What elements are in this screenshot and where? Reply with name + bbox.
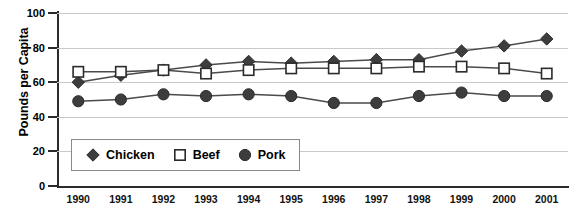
data-point xyxy=(456,61,466,71)
data-point xyxy=(371,97,382,108)
x-axis-tick-label: 1990 xyxy=(67,193,90,205)
x-axis-tick-label: 2001 xyxy=(535,193,558,205)
y-axis-tick-mark xyxy=(48,185,57,187)
y-axis-tick-label: 60 xyxy=(33,76,45,88)
data-point xyxy=(72,76,84,88)
data-point xyxy=(329,63,339,73)
data-point xyxy=(413,90,424,101)
y-axis-tick-label: 40 xyxy=(33,111,45,123)
y-axis-tick-label: 0 xyxy=(39,180,45,192)
series-pork xyxy=(78,93,546,103)
filled-diamond-icon xyxy=(85,147,101,163)
data-point xyxy=(456,87,467,98)
data-point xyxy=(541,33,553,45)
open-square-icon xyxy=(172,147,188,163)
series-line xyxy=(78,93,546,103)
markers-chicken xyxy=(72,33,553,89)
data-point xyxy=(498,40,510,52)
y-axis-tick-mark xyxy=(48,150,57,152)
data-point xyxy=(158,65,168,75)
legend-label: Beef xyxy=(193,148,220,162)
data-point xyxy=(371,63,381,73)
data-point xyxy=(455,45,467,57)
series-line xyxy=(78,39,546,82)
x-axis-tick-label: 1996 xyxy=(322,193,345,205)
x-axis-tick-label: 1995 xyxy=(280,193,303,205)
data-point xyxy=(200,90,211,101)
legend-item-beef[interactable]: Beef xyxy=(172,147,220,163)
meat-consumption-line-chart: Pounds per Capita 020406080100 199019911… xyxy=(0,0,576,217)
y-axis-tick-mark xyxy=(48,81,57,83)
markers-pork xyxy=(73,87,553,109)
x-axis-tick-label: 1992 xyxy=(152,193,175,205)
x-axis-tick-label: 1994 xyxy=(237,193,260,205)
data-point xyxy=(73,67,83,77)
legend-label: Chicken xyxy=(106,148,155,162)
data-point xyxy=(286,63,296,73)
data-point xyxy=(541,90,552,101)
y-axis-title: Pounds per Capita xyxy=(17,2,31,162)
y-axis-tick-label: 100 xyxy=(27,7,45,19)
legend-label: Pork xyxy=(258,148,286,162)
x-axis-tick-label: 1998 xyxy=(407,193,430,205)
x-axis-tick-label: 2000 xyxy=(492,193,515,205)
x-axis-tick-label: 1999 xyxy=(450,193,473,205)
data-point xyxy=(328,97,339,108)
data-point xyxy=(286,90,297,101)
filled-circle-icon xyxy=(237,147,253,163)
data-point xyxy=(201,68,211,78)
data-point xyxy=(158,89,169,100)
series-chicken xyxy=(78,39,546,82)
y-axis-tick-label: 80 xyxy=(33,42,45,54)
legend-item-chicken[interactable]: Chicken xyxy=(85,147,155,163)
chart-legend: ChickenBeefPork xyxy=(71,139,300,171)
x-axis-tick-label: 1997 xyxy=(365,193,388,205)
data-point xyxy=(414,61,424,71)
x-axis-tick-label: 1991 xyxy=(109,193,132,205)
y-axis-tick-mark xyxy=(48,47,57,49)
data-point xyxy=(116,67,126,77)
x-axis-line xyxy=(57,186,569,188)
data-point xyxy=(73,96,84,107)
y-axis-tick-label: 20 xyxy=(33,145,45,157)
data-point xyxy=(115,94,126,105)
data-point xyxy=(499,90,510,101)
data-point xyxy=(542,68,552,78)
data-point xyxy=(243,65,253,75)
y-axis-tick-mark xyxy=(48,116,57,118)
y-axis-tick-mark xyxy=(48,12,57,14)
legend-item-pork[interactable]: Pork xyxy=(237,147,286,163)
markers-beef xyxy=(73,61,552,78)
data-point xyxy=(243,89,254,100)
data-point xyxy=(499,63,509,73)
x-axis-tick-label: 1993 xyxy=(194,193,217,205)
